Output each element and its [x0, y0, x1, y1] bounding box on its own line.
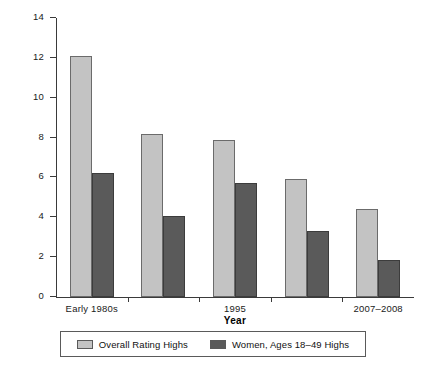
y-tick-label: 2	[0, 250, 44, 261]
bar	[378, 260, 400, 297]
bar	[70, 56, 92, 297]
x-tick-mark	[128, 297, 129, 302]
bar	[285, 179, 307, 297]
y-tick-label: 14	[0, 11, 44, 22]
legend-entry: Women, Ages 18–49 Highs	[210, 339, 349, 350]
plot-area	[56, 18, 414, 297]
legend-label: Women, Ages 18–49 Highs	[232, 339, 349, 350]
x-axis-title: Year	[56, 315, 414, 326]
light-gray-swatch	[77, 340, 93, 349]
x-axis-line	[56, 297, 414, 298]
y-tick-label: 12	[0, 51, 44, 62]
bar-chart: Ratings Year 02468101214 Early 1980s1995…	[0, 0, 426, 369]
bar	[307, 231, 329, 297]
x-tick-mark	[271, 297, 272, 302]
y-tick-label: 6	[0, 170, 44, 181]
y-tick-label: 8	[0, 131, 44, 142]
y-tick-label: 10	[0, 91, 44, 102]
bar	[163, 216, 185, 297]
bar	[235, 183, 257, 297]
dark-gray-swatch	[210, 340, 226, 349]
x-tick-mark	[199, 297, 200, 302]
chart-legend: Overall Rating HighsWomen, Ages 18–49 Hi…	[60, 331, 366, 357]
y-tick-label: 4	[0, 210, 44, 221]
x-tick-label: Early 1980s	[56, 303, 128, 314]
x-tick-label: 2007–2008	[342, 303, 414, 314]
bar	[213, 140, 235, 297]
x-tick-mark	[342, 297, 343, 302]
legend-label: Overall Rating Highs	[99, 339, 188, 350]
legend-entry: Overall Rating Highs	[77, 339, 188, 350]
bar	[356, 209, 378, 297]
x-tick-label: 1995	[199, 303, 271, 314]
bar	[92, 173, 114, 297]
y-tick-label: 0	[0, 290, 44, 301]
bar	[141, 134, 163, 297]
